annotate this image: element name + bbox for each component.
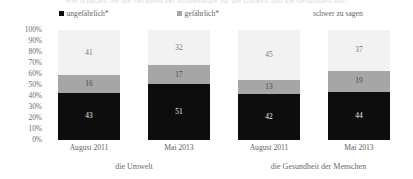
stacked-bar[interactable]: 441937 xyxy=(328,30,390,140)
y-axis-tick: 20% xyxy=(6,114,42,122)
bar-segment-value: 43 xyxy=(85,112,93,120)
bar-segment[interactable]: 45 xyxy=(238,30,300,80)
bar-segment[interactable]: 16 xyxy=(58,75,120,93)
y-axis-tick: 30% xyxy=(6,103,42,111)
bar-segment[interactable]: 13 xyxy=(238,80,300,94)
x-axis-tick-label: August 2011 xyxy=(238,143,300,152)
y-axis-tick: 50% xyxy=(6,81,42,89)
y-axis-tick: 0% xyxy=(6,136,42,144)
y-axis-tick: 60% xyxy=(6,70,42,78)
stacked-bar[interactable]: 431641 xyxy=(58,30,120,140)
bar-segment-value: 37 xyxy=(355,46,363,54)
chart-title-clipped: Wie schätzen Sie die Gefahren der Atomen… xyxy=(0,0,413,4)
stacked-bar[interactable]: 421345 xyxy=(238,30,300,140)
bar-group: 511732Mai 2013 xyxy=(148,30,210,140)
legend-label: schwer zu sagen xyxy=(313,9,363,18)
bar-segment-value: 16 xyxy=(85,80,93,88)
x-axis-tick-label: Mai 2013 xyxy=(328,143,390,152)
y-axis-tick: 10% xyxy=(6,125,42,133)
bar-segment[interactable]: 19 xyxy=(328,71,390,92)
stacked-bar-chart: Wie schätzen Sie die Gefahren der Atomen… xyxy=(0,0,413,179)
y-axis-tick: 40% xyxy=(6,92,42,100)
legend-label: ungefährlich* xyxy=(67,9,109,18)
bar-segment[interactable]: 32 xyxy=(148,30,210,65)
legend-swatch-gray xyxy=(177,11,182,16)
bar-segment-value: 32 xyxy=(175,44,183,52)
bar-segment[interactable]: 51 xyxy=(148,84,210,140)
bar-segment-value: 45 xyxy=(265,51,273,59)
group-label-umwelt: die Umwelt xyxy=(44,162,224,171)
legend-item-schwer-zu-sagen[interactable]: schwer zu sagen xyxy=(310,9,363,18)
bar-segment[interactable]: 43 xyxy=(58,93,120,140)
bar-segment-value: 51 xyxy=(175,108,183,116)
bar-segment[interactable]: 37 xyxy=(328,30,390,71)
bar-segment-value: 41 xyxy=(85,49,93,57)
stacked-bar[interactable]: 511732 xyxy=(148,30,210,140)
x-axis-tick-label: August 2011 xyxy=(58,143,120,152)
legend-item-ungefaehrlich[interactable]: ungefährlich* xyxy=(59,9,109,18)
y-axis-tick: 80% xyxy=(6,48,42,56)
legend-swatch-black xyxy=(59,11,64,16)
y-axis-tick: 70% xyxy=(6,59,42,67)
y-axis-tick: 100% xyxy=(6,26,42,34)
bar-segment[interactable]: 44 xyxy=(328,92,390,140)
bar-segment-value: 44 xyxy=(355,112,363,120)
bar-segment-value: 13 xyxy=(265,83,273,91)
legend-item-gefaehrlich[interactable]: gefährlich* xyxy=(177,9,219,18)
x-axis-tick-label: Mai 2013 xyxy=(148,143,210,152)
bar-segment-value: 42 xyxy=(265,113,273,121)
y-axis: 100%90%80%70%60%50%40%30%20%10%0% xyxy=(6,30,42,140)
bar-group: 431641August 2011 xyxy=(58,30,120,140)
plot-area: 431641August 2011511732Mai 2013421345Aug… xyxy=(44,30,413,140)
y-axis-tick: 90% xyxy=(6,37,42,45)
bar-group: 441937Mai 2013 xyxy=(328,30,390,140)
bar-segment[interactable]: 17 xyxy=(148,65,210,84)
bar-segment-value: 17 xyxy=(175,71,183,79)
bar-group: 421345August 2011 xyxy=(238,30,300,140)
bar-segment[interactable]: 42 xyxy=(238,94,300,140)
group-label-gesundheit: die Gesundheit der Menschen xyxy=(224,162,413,171)
chart-legend: ungefährlich* gefährlich* schwer zu sage… xyxy=(0,9,413,22)
bar-segment[interactable]: 41 xyxy=(58,30,120,75)
bar-segment-value: 19 xyxy=(355,77,363,85)
legend-label: gefährlich* xyxy=(185,9,220,18)
